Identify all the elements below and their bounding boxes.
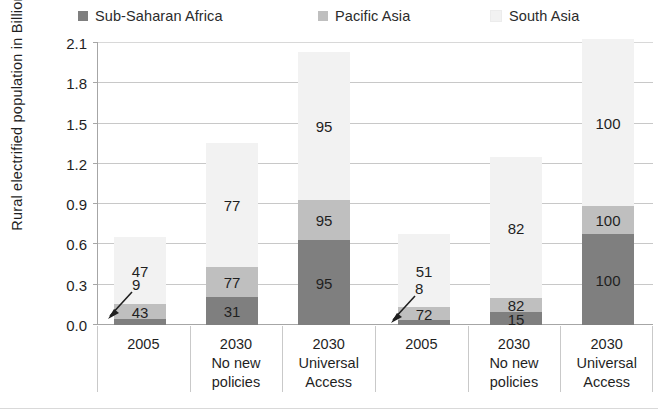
stacked-bar-chart: Sub-Saharan Africa Pacific Asia South As… xyxy=(0,0,658,417)
x-axis-category-line2: No new xyxy=(190,354,283,373)
x-axis-category-line3: Access xyxy=(282,373,375,392)
bar-group-bar-2005-b[interactable]: 5172 xyxy=(398,43,450,325)
y-tick-label-1.2: 1.2 xyxy=(47,155,87,172)
legend-item-sub-saharan-africa[interactable]: Sub-Saharan Africa xyxy=(78,8,223,24)
x-axis-category-5: 2030UniversalAccess xyxy=(560,326,653,409)
bar-segment-value: 77 xyxy=(206,274,258,291)
x-axis-category-line3: Access xyxy=(560,373,653,392)
x-axis-category-0: 2005 xyxy=(97,326,190,409)
bar-segment-sub-saharan-africa[interactable]: 15 xyxy=(490,312,542,325)
bar-segment-south-asia[interactable]: 82 xyxy=(490,157,542,298)
y-axis-title: Rural electrified population in Billion xyxy=(9,0,25,257)
bar-segment-value: 95 xyxy=(298,212,350,229)
legend-label-pacific-asia: Pacific Asia xyxy=(335,8,410,24)
callout-value: 9 xyxy=(132,276,140,293)
bar-stack: 100100100 xyxy=(582,39,634,325)
y-axis-tick-labels: 0.00.30.60.91.21.51.82.1 xyxy=(42,43,87,325)
x-axis-category-1: 2030No newpolicies xyxy=(190,326,283,409)
bar-segment-south-asia[interactable]: 77 xyxy=(206,143,258,267)
chart-legend: Sub-Saharan Africa Pacific Asia South As… xyxy=(0,0,658,36)
x-axis-category-line2: Universal xyxy=(282,354,375,373)
x-axis-category-2: 2030UniversalAccess xyxy=(282,326,375,409)
legend-swatch-pacific-asia xyxy=(318,11,328,21)
bar-segment-value: 100 xyxy=(582,271,634,288)
x-axis-category-line1: 2030 xyxy=(498,336,530,352)
legend-item-south-asia[interactable]: South Asia xyxy=(490,8,579,24)
x-axis-category-line1: 2005 xyxy=(405,336,437,352)
bar-segment-value: 100 xyxy=(582,114,634,131)
callout-value: 8 xyxy=(415,280,423,297)
bar-segment-sub-saharan-africa[interactable]: 100 xyxy=(582,234,634,325)
y-tick-label-0.0: 0.0 xyxy=(47,317,87,334)
legend-label-sub-saharan-africa: Sub-Saharan Africa xyxy=(95,8,223,24)
bar-segment-value: 31 xyxy=(206,303,258,320)
legend-item-pacific-asia[interactable]: Pacific Asia xyxy=(318,8,410,24)
callout-8: 8 xyxy=(385,286,431,330)
x-axis-divider-5 xyxy=(560,326,561,392)
bar-segment-pacific-asia[interactable]: 82 xyxy=(490,298,542,312)
legend-label-south-asia: South Asia xyxy=(509,8,579,24)
x-axis-category-line3: policies xyxy=(468,373,561,392)
y-tick-label-2.1: 2.1 xyxy=(47,35,87,52)
bars-layer: 47437777319595955172828215100100100 xyxy=(98,43,653,325)
x-axis-divider-2 xyxy=(282,326,283,392)
bar-segment-pacific-asia[interactable]: 95 xyxy=(298,200,350,240)
y-tick-label-0.9: 0.9 xyxy=(47,196,87,213)
bar-segment-south-asia[interactable]: 95 xyxy=(298,52,350,200)
x-axis-divider-last xyxy=(652,326,653,392)
chart-bottom-border xyxy=(0,408,658,409)
x-axis: 20052030No newpolicies2030UniversalAcces… xyxy=(97,326,653,409)
bar-segment-value: 15 xyxy=(490,310,542,327)
bar-stack: 959595 xyxy=(298,52,350,325)
x-axis-divider-1 xyxy=(190,326,191,392)
bar-segment-value: 82 xyxy=(490,219,542,236)
bar-segment-sub-saharan-africa[interactable]: 31 xyxy=(206,297,258,325)
x-axis-divider-3 xyxy=(375,326,376,392)
x-axis-divider-0 xyxy=(97,326,98,392)
legend-swatch-south-asia xyxy=(490,10,502,22)
x-axis-category-line2: Universal xyxy=(560,354,653,373)
x-axis-category-4: 2030No newpolicies xyxy=(468,326,561,409)
callout-arrow-icon xyxy=(102,282,148,326)
bar-segment-value: 82 xyxy=(490,297,542,314)
x-axis-category-line2: No new xyxy=(468,354,561,373)
bar-segment-value: 51 xyxy=(398,262,450,279)
bar-stack: 828215 xyxy=(490,157,542,325)
bar-segment-value: 100 xyxy=(582,212,634,229)
callout-arrow-icon xyxy=(385,286,431,330)
x-axis-divider-4 xyxy=(468,326,469,392)
x-axis-category-line1: 2030 xyxy=(313,336,345,352)
bar-segment-value: 77 xyxy=(206,197,258,214)
bar-stack: 777731 xyxy=(206,143,258,325)
x-axis-category-line3: policies xyxy=(190,373,283,392)
bar-segment-value: 95 xyxy=(298,274,350,291)
bar-group-bar-2030-universal-b[interactable]: 100100100 xyxy=(582,43,634,325)
bar-segment-south-asia[interactable]: 100 xyxy=(582,39,634,206)
bar-group-bar-2030-nonew-b[interactable]: 828215 xyxy=(490,43,542,325)
x-axis-category-3: 2005 xyxy=(375,326,468,409)
x-axis-category-line1: 2005 xyxy=(127,336,159,352)
bar-segment-pacific-asia[interactable]: 100 xyxy=(582,206,634,234)
y-tick-label-0.6: 0.6 xyxy=(47,236,87,253)
y-tick-label-0.3: 0.3 xyxy=(47,276,87,293)
bar-group-bar-2030-nonew-a[interactable]: 777731 xyxy=(206,43,258,325)
bar-segment-sub-saharan-africa[interactable]: 95 xyxy=(298,240,350,325)
bar-segment-value: 95 xyxy=(298,118,350,135)
callout-9: 9 xyxy=(102,282,148,326)
bar-segment-pacific-asia[interactable]: 77 xyxy=(206,267,258,297)
x-axis-category-line1: 2030 xyxy=(220,336,252,352)
legend-swatch-sub-saharan-africa xyxy=(78,11,88,21)
y-tick-label-1.5: 1.5 xyxy=(47,115,87,132)
bar-group-bar-2030-universal-a[interactable]: 959595 xyxy=(298,43,350,325)
y-tick-label-1.8: 1.8 xyxy=(47,75,87,92)
x-axis-category-line1: 2030 xyxy=(591,336,623,352)
